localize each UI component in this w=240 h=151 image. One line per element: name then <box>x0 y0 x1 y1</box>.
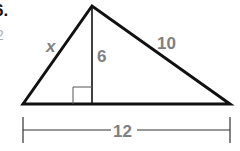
problem-number: 6. <box>0 1 8 20</box>
triangle-diagram: 6. 2 x 6 10 12 <box>0 0 240 151</box>
problem-sub-label: 2 <box>0 27 4 43</box>
label-side-10: 10 <box>157 34 176 53</box>
label-side-x: x <box>45 37 57 56</box>
label-altitude-6: 6 <box>97 47 106 66</box>
label-base-12: 12 <box>113 122 132 141</box>
right-angle-marker <box>73 87 92 104</box>
